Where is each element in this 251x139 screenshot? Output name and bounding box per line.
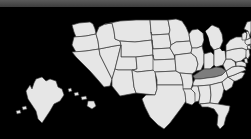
state-GA[interactable] [210, 82, 224, 104]
alaska-inset[interactable] [16, 77, 64, 123]
state-NM[interactable] [132, 70, 157, 95]
us-map-svg [0, 7, 251, 139]
state-ND[interactable] [150, 20, 170, 35]
state-AK[interactable] [26, 77, 64, 123]
state-SD[interactable] [151, 32, 171, 49]
state-NJ[interactable] [246, 49, 250, 59]
window-title-bar [0, 0, 251, 7]
hawaii-kauai [68, 88, 72, 92]
state-AL[interactable] [198, 85, 211, 104]
alaska-aleutian-2 [16, 110, 21, 114]
hawaii-inset[interactable] [68, 88, 96, 109]
state-WY[interactable] [120, 40, 153, 57]
state-FL[interactable] [200, 103, 230, 129]
hawaii-oahu [74, 92, 79, 96]
hawaii-maui [81, 96, 87, 100]
hawaii-big-island [87, 101, 96, 109]
state-IN[interactable] [204, 52, 214, 69]
state-OK[interactable] [155, 71, 183, 85]
screenshot-root [0, 0, 251, 139]
alaska-aleutian-1 [22, 106, 27, 110]
map-canvas [0, 7, 251, 139]
